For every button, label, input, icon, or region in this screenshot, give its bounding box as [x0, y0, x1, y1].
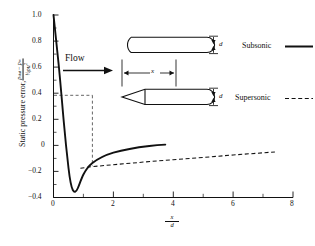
- rho-u-symbol: ρu: [24, 65, 30, 71]
- x-axis-title-denominator: d: [170, 221, 173, 228]
- y-tick-label-5: 0.2: [32, 115, 41, 123]
- flow-label: Flow: [65, 53, 85, 63]
- p-stat-subscript: stat: [17, 71, 22, 77]
- p-stat-symbol: p: [16, 77, 22, 80]
- x-tick-label-2: 2: [111, 200, 115, 208]
- y-tick-label-3: 0.6: [32, 63, 41, 71]
- subsonic-probe-body: [131, 37, 215, 52]
- y-tick-label-8: −0.4: [28, 193, 42, 201]
- supersonic-probe-diagram: [122, 89, 215, 104]
- x-dimension-label: x: [151, 67, 154, 75]
- x-tick-label-4: 6: [231, 200, 235, 208]
- x-dimension-line: [122, 60, 176, 87]
- x-axis-title: x d: [165, 214, 179, 229]
- minus-p-infinity: − p: [16, 62, 22, 71]
- figure-svg: [0, 0, 315, 246]
- y-axis-title-fraction: pstat− p∞ ½ρu2: [16, 58, 31, 81]
- subsonic-probe-nose: [127, 37, 131, 52]
- y-tick-label-1: 1.0: [32, 11, 41, 19]
- legend-label-supersonic: Supersonic: [235, 93, 271, 102]
- figure-root: 1.0 0.8 0.6 0.4 0.2 0 −0.2 −0.4 0 2 4 6 …: [0, 0, 315, 246]
- subsonic-probe-diagram: [127, 37, 214, 52]
- d-label-subsonic: d: [219, 40, 223, 48]
- u-squared-exponent: 2: [22, 63, 27, 65]
- x-tick-label-1: 0: [51, 200, 55, 208]
- annotation-dashed-lines: [54, 95, 92, 166]
- x-tick-label-5: 8: [290, 200, 294, 208]
- d-dimension-subsonic: [209, 36, 218, 53]
- p-infinity-subscript: ∞: [17, 59, 22, 62]
- y-axis-fraction-denominator: ½ρu2: [23, 58, 30, 81]
- flow-arrow: [63, 67, 113, 74]
- legend-sample-lines: [285, 47, 313, 99]
- y-axis-title: Static pressure error, pstat− p∞ ½ρu2: [16, 27, 31, 177]
- y-tick-label-4: 0.4: [32, 89, 41, 97]
- y-tick-label-2: 0.8: [32, 37, 41, 45]
- one-half-symbol: ½: [24, 71, 30, 76]
- y-axis-title-text: Static pressure error,: [18, 81, 27, 147]
- supersonic-probe-body: [122, 89, 215, 104]
- d-dimension-supersonic: [209, 88, 218, 105]
- y-axis-fraction-numerator: pstat− p∞: [16, 58, 24, 81]
- y-tick-label-6: 0: [41, 141, 45, 149]
- d-label-supersonic: d: [219, 92, 223, 100]
- x-ticks: [54, 192, 294, 198]
- x-tick-label-3: 4: [171, 200, 175, 208]
- legend-label-subsonic: Subsonic: [242, 41, 271, 50]
